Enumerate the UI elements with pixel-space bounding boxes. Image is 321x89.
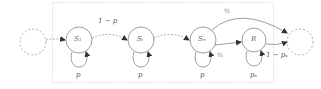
self-loop-sn: [195, 52, 211, 67]
edge-r-ext-right: [266, 42, 287, 45]
self-loop-s1: [71, 52, 87, 67]
edge-label-sn-ext-right: ½: [224, 8, 230, 14]
external-state-left: [20, 29, 46, 55]
edge-label-s1-si: 1 − p: [98, 18, 117, 25]
markov-chain-diagram: [0, 0, 321, 89]
edge-s1-si: [92, 34, 127, 40]
edge-label-sn-r: ½: [217, 52, 223, 58]
state-label-sn: Sₙ: [198, 36, 206, 43]
self-loop-si: [133, 52, 149, 67]
state-label-s1: S₁: [74, 36, 82, 43]
loop-label-sn: p: [200, 72, 204, 79]
loop-label-r: pₛ: [250, 72, 257, 79]
external-state-right: [287, 29, 313, 55]
state-label-r: R: [251, 36, 256, 43]
self-loop-r: [246, 51, 262, 66]
loop-label-s1: p: [76, 72, 80, 79]
state-label-si: Sᵢ: [137, 36, 143, 43]
edge-si-sn: [154, 34, 189, 40]
edge-label-r-ext-right: 1 − pₛ: [266, 52, 288, 59]
edge-sn-r: [215, 42, 241, 45]
loop-label-si: p: [138, 72, 142, 79]
edge-ext-s1: [46, 39, 65, 40]
